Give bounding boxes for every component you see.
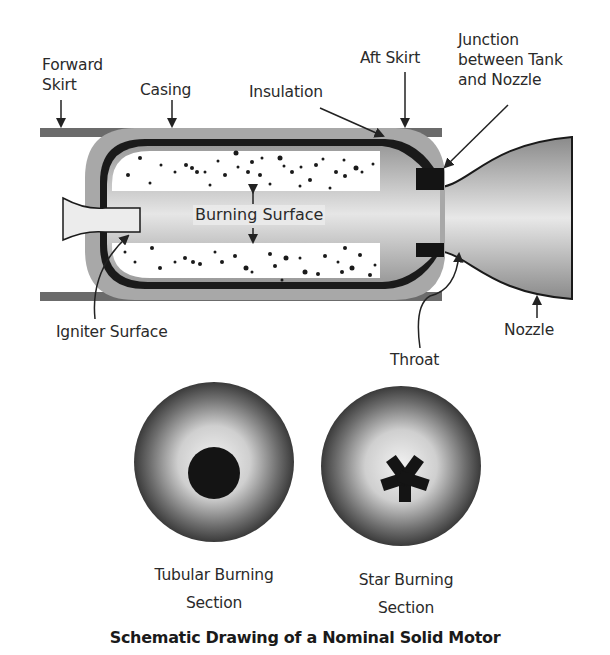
label-throat: Throat (390, 350, 439, 370)
label-star-section: Star Burning Section (326, 570, 486, 618)
label-junction: Junction between Tank and Nozzle (458, 30, 563, 90)
tubular-section-core (188, 447, 240, 499)
label-nozzle: Nozzle (504, 320, 554, 340)
label-tubular-section: Tubular Burning Section (134, 565, 294, 613)
label-insulation: Insulation (249, 82, 323, 102)
junction-bottom (416, 243, 444, 257)
label-igniter-surface: Igniter Surface (56, 322, 168, 342)
propellant-upper (112, 151, 380, 191)
junction-top (416, 168, 444, 190)
label-burning-surface: Burning Surface (193, 205, 325, 225)
label-forward-skirt: Forward Skirt (42, 55, 103, 95)
figure-title: Schematic Drawing of a Nominal Solid Mot… (0, 628, 610, 647)
label-aft-skirt: Aft Skirt (360, 48, 420, 68)
label-casing: Casing (140, 80, 191, 100)
